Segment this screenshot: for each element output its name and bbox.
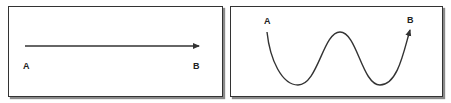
right-end-label: B <box>407 15 414 25</box>
right-start-label: A <box>264 16 271 26</box>
diagram-canvas: A B A B <box>0 0 451 103</box>
left-end-label: B <box>193 61 200 71</box>
wavy-arrow <box>267 30 410 85</box>
left-start-label: A <box>23 61 30 71</box>
